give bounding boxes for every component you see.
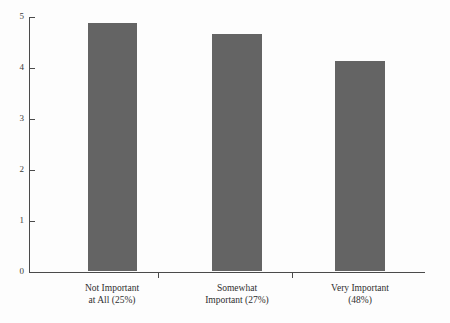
y-axis-line bbox=[29, 17, 30, 273]
y-tick-mark bbox=[30, 119, 35, 120]
y-tick-label: 3 bbox=[20, 113, 25, 124]
x-category-label-line1: Very Important bbox=[310, 283, 410, 295]
y-tick-mark bbox=[30, 272, 35, 273]
y-tick-mark bbox=[30, 170, 35, 171]
bar-very-important bbox=[335, 61, 385, 271]
chart-title bbox=[0, 0, 450, 2]
bar-not-important-at-all bbox=[88, 23, 137, 271]
y-tick-mark bbox=[30, 17, 35, 18]
y-axis-tick-1: 1 bbox=[29, 221, 35, 222]
x-category-label-line2: at All (25%) bbox=[62, 295, 162, 307]
y-axis-tick-2: 2 bbox=[29, 170, 35, 171]
x-axis-line bbox=[29, 272, 425, 273]
bar-somewhat-important bbox=[212, 34, 262, 271]
x-category-label-line1: Somewhat bbox=[187, 283, 287, 295]
y-tick-mark bbox=[30, 68, 35, 69]
x-category-label-0: Not Important at All (25%) bbox=[62, 283, 162, 306]
y-axis-tick-4: 4 bbox=[29, 68, 35, 69]
y-tick-label: 4 bbox=[20, 62, 25, 73]
x-category-label-line2: Important (27%) bbox=[187, 295, 287, 307]
x-category-label-1: Somewhat Important (27%) bbox=[187, 283, 287, 306]
x-category-label-line2: (48%) bbox=[310, 295, 410, 307]
x-axis-tick-1 bbox=[158, 272, 159, 278]
x-category-label-2: Very Important (48%) bbox=[310, 283, 410, 306]
y-axis-tick-0: 0 bbox=[29, 272, 35, 273]
y-axis-tick-3: 3 bbox=[29, 119, 35, 120]
y-tick-label: 1 bbox=[20, 215, 25, 226]
x-category-label-line1: Not Important bbox=[62, 283, 162, 295]
y-axis-tick-5: 5 bbox=[29, 17, 35, 18]
x-axis-tick-2 bbox=[292, 272, 293, 278]
bar-chart-figure: 0 1 2 3 4 5 Not Important bbox=[0, 0, 450, 323]
y-tick-label: 5 bbox=[20, 11, 25, 22]
y-tick-mark bbox=[30, 221, 35, 222]
plot-area: 0 1 2 3 4 5 Not Important bbox=[29, 17, 425, 272]
y-tick-label: 2 bbox=[20, 164, 25, 175]
y-tick-label: 0 bbox=[20, 266, 25, 277]
